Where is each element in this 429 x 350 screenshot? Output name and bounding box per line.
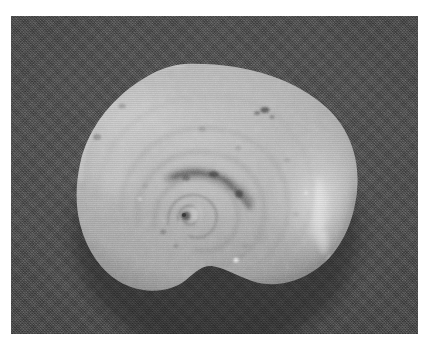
shell-layer: [11, 16, 418, 334]
snail-shell-illustration: [11, 16, 418, 334]
image-caption: [11, 336, 418, 348]
photograph-plate: [11, 16, 418, 334]
image-page: [0, 0, 429, 350]
